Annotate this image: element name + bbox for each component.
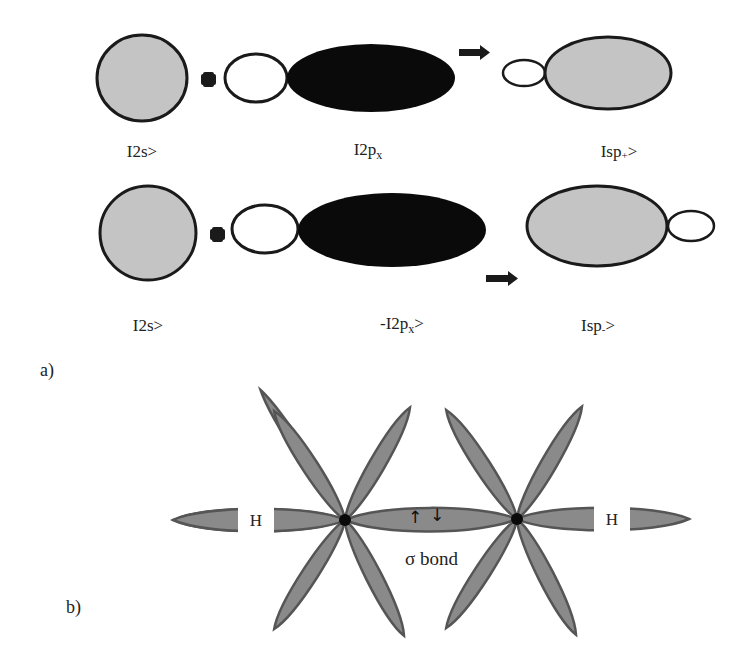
label-2px-row1: I2px [354, 140, 383, 163]
label-sp-plus-main: Isp [601, 142, 622, 161]
spin-down-arrow-icon: ↓ [430, 505, 444, 525]
hydrogen-right-label: H [594, 505, 630, 535]
label-neg-2px-end: > [414, 314, 424, 333]
hydrogen-left-label: H [238, 506, 274, 536]
label-2px-main: I2p [354, 140, 377, 159]
label-neg-2px-main: -I2p [380, 314, 408, 333]
label-2s-row1: I2s> [127, 142, 157, 162]
part-b-label: b) [66, 597, 81, 618]
label-sp-minus-main: Isp [581, 316, 602, 335]
part-a-label: a) [40, 360, 54, 381]
label-sp-minus: Isp-> [581, 316, 615, 336]
nucleus-right [511, 513, 523, 525]
label-2px-sub: x [376, 148, 382, 162]
hybrid-lobes-layer [0, 0, 751, 663]
label-neg-2px-row2: -I2px> [380, 314, 424, 337]
nucleus-left [339, 514, 351, 526]
label-sp-plus-end: > [628, 142, 638, 161]
sigma-bond-label: σ bond [405, 548, 458, 570]
label-sp-minus-end: > [605, 316, 615, 335]
label-sp-plus: Isp+> [601, 142, 638, 162]
spin-up-arrow-icon: ↑ [408, 507, 422, 527]
label-2s-row2: I2s> [133, 316, 163, 336]
